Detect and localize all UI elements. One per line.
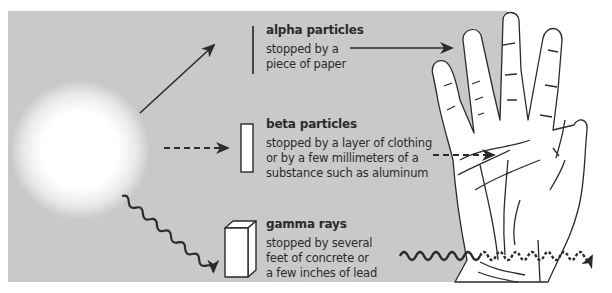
radiation-penetration-diagram: alpha particles stopped by a piece of pa…	[0, 0, 612, 293]
alpha-description: stopped by a piece of paper	[266, 42, 364, 72]
alpha-label: alpha particles stopped by a piece of pa…	[266, 23, 364, 72]
gamma-description: stopped by several feet of concrete or a…	[266, 236, 377, 281]
beta-title: beta particles	[266, 117, 432, 132]
gamma-label: gamma rays stopped by several feet of co…	[266, 217, 377, 281]
beta-label: beta particles stopped by a layer of clo…	[266, 117, 432, 181]
lead-block-barrier-icon	[225, 221, 256, 277]
gamma-title: gamma rays	[266, 217, 377, 232]
aluminum-barrier-icon	[241, 124, 253, 172]
alpha-title: alpha particles	[266, 23, 364, 38]
beta-description: stopped by a layer of clothing or by a f…	[266, 136, 432, 181]
